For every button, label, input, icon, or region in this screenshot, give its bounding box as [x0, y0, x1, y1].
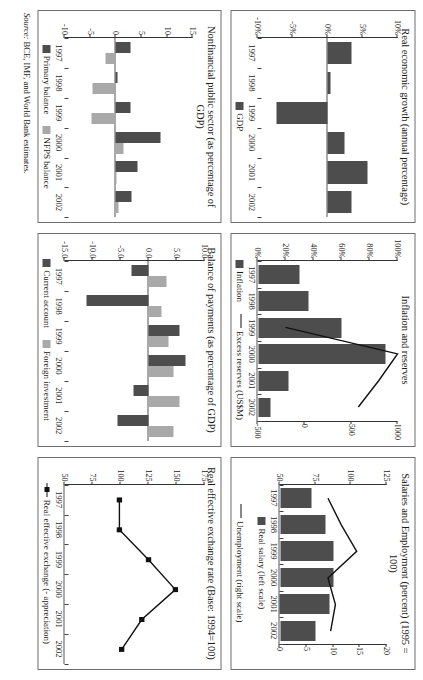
- y-tick-label: 150: [171, 469, 180, 481]
- bar-2001: [328, 161, 367, 183]
- bar-1999: [115, 102, 130, 113]
- y-tick-label: -15.0: [60, 241, 69, 258]
- bar-2000: [115, 132, 159, 143]
- y-tick-label: 125: [143, 469, 152, 481]
- x-tick-mark: [258, 98, 262, 99]
- plot-area-reer: 1751501251007550: [64, 463, 204, 664]
- x-tick-mark: [64, 98, 68, 99]
- x-tick-label: 1997: [53, 268, 63, 285]
- panel-title-inflation: Inflation and reserves: [398, 239, 410, 440]
- x-tick-mark: [64, 321, 68, 322]
- x-tick-label: 1997: [247, 44, 257, 61]
- x-tick-label: 1998: [53, 298, 63, 315]
- x-tick-mark: [64, 351, 68, 352]
- x-tick-mark: [64, 68, 68, 69]
- legend-item: Inflation: [235, 260, 245, 302]
- bar-2002: [328, 191, 352, 213]
- y2-tick-label: 0: [300, 424, 309, 428]
- x-axis-nfps: 199719981999200020012002: [51, 38, 64, 217]
- bar-2001: [115, 161, 137, 172]
- y-tick-label: 5.0: [171, 248, 180, 258]
- x-tick-mark: [64, 187, 68, 188]
- x-tick-label: 1999: [247, 319, 257, 336]
- plot-area-inflation: 0%20%40%60%80%100% -50005001000: [258, 239, 398, 440]
- x-tick-label: 2001: [53, 387, 63, 404]
- x-tick-mark: [64, 158, 68, 159]
- y-tick-label: -10: [60, 24, 69, 35]
- y-tick-label: -5.0: [115, 245, 124, 258]
- legend-label: Foreign investment: [41, 351, 51, 421]
- source-note: Source: BCE, IMF, and World Bank estimat…: [21, 13, 31, 174]
- x-tick-label: 2000: [53, 581, 63, 598]
- y-axis-salaries-right: 05101520: [280, 644, 386, 664]
- panel-real-effective-exchange-rate: Real effective exchange rate (Base: 1994…: [37, 457, 222, 670]
- bar-2000: [148, 355, 186, 366]
- bar-1999: [148, 336, 168, 347]
- x-tick-label: 1999: [247, 104, 257, 121]
- y-tick-label: 15: [188, 27, 197, 35]
- bar-2002: [258, 398, 271, 418]
- line-marker: [139, 617, 144, 622]
- legend-swatch: [47, 483, 48, 497]
- bar-1997: [328, 42, 352, 64]
- legend-label: Excess reserves (US$M): [235, 331, 245, 420]
- x-tick-mark: [64, 38, 68, 39]
- y-tick-label: 0%: [323, 24, 332, 35]
- x-tick-mark: [258, 217, 262, 218]
- bar-1998: [86, 295, 148, 306]
- line-series: [119, 500, 175, 649]
- x-tick-mark: [258, 187, 262, 188]
- x-tick-mark: [64, 664, 68, 665]
- panel-title-growth: Real economic growth (annual percentage): [398, 16, 410, 217]
- legend-swatch: [42, 340, 50, 348]
- x-tick-label: 1999: [53, 551, 63, 568]
- x-tick-mark: [280, 485, 284, 486]
- y-tick-label: 100%: [393, 239, 402, 258]
- plot-area-bop: 10.05.00.0-5.0-10.0-15.0: [64, 239, 204, 440]
- y-tick-label: 80%: [365, 243, 374, 258]
- x-tick-mark: [280, 538, 284, 539]
- legend-label: Primary balance: [41, 56, 51, 115]
- source-label: Source:: [21, 13, 31, 39]
- legend-swatch: [236, 102, 244, 110]
- bar-1999: [91, 113, 115, 124]
- x-tick-label: 1998: [53, 74, 63, 91]
- legend-item: Primary balance: [41, 45, 51, 115]
- x-tick-label: 1998: [269, 516, 279, 533]
- bar-2002: [280, 621, 315, 641]
- y2-tick-label: -500: [253, 424, 262, 439]
- y-tick-label: 75: [310, 473, 319, 481]
- source-text: BCE, IMF, and World Bank estimates.: [21, 39, 31, 173]
- y-tick-label: 5%: [358, 24, 367, 35]
- y2-tick-label: 15: [355, 647, 364, 655]
- plot-salaries: [280, 485, 386, 644]
- x-tick-mark: [280, 564, 284, 565]
- x-tick-mark: [258, 68, 262, 69]
- y2-tick-mark: [358, 644, 359, 647]
- bar-1997: [131, 265, 148, 276]
- bar-1998: [280, 515, 325, 535]
- legend-swatch: [240, 504, 241, 518]
- x-tick-mark: [64, 291, 68, 292]
- x-tick-label: 1998: [247, 74, 257, 91]
- plot-inflation: [258, 261, 398, 420]
- legend-item: NFPS balance: [41, 126, 51, 188]
- y2-tick-label: 1000: [393, 424, 402, 440]
- bar-2000: [280, 568, 334, 588]
- legend-inflation: InflationExcess reserves (US$M): [235, 239, 245, 440]
- y-tick-label: 100: [115, 469, 124, 481]
- y2-tick-label: 20: [381, 647, 390, 655]
- x-tick-mark: [258, 421, 262, 422]
- x-tick-label: 2000: [53, 357, 63, 374]
- bar-1998: [327, 72, 330, 94]
- x-tick-label: 1999: [53, 327, 63, 344]
- y2-tick-mark: [332, 644, 333, 647]
- plot-growth: [258, 38, 398, 217]
- x-tick-mark: [64, 217, 68, 218]
- legend-bop: Current accountForeign investment: [41, 239, 51, 440]
- line-marker: [118, 647, 123, 652]
- panel-nonfinancial-public-sector: Nonfinancial public sector (as percentag…: [37, 10, 222, 223]
- panel-title-reer: Real effective exchange rate (Base: 1994…: [205, 463, 217, 664]
- legend-item: Foreign investment: [41, 340, 51, 421]
- y-axis-inflation-right: -50005001000: [258, 421, 398, 441]
